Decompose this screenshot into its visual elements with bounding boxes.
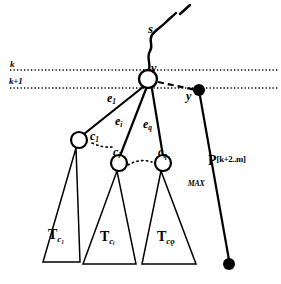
path-label-pmax: P[k+2..m]MAX [208, 154, 246, 188]
edge-label-ei: ei [115, 115, 122, 129]
node-label-ci: ci [113, 146, 120, 160]
diagram-svg [0, 0, 281, 284]
triangle-label-T-c1: Tc₁ [48, 228, 64, 243]
edge-label-ei-sub: i [120, 120, 122, 129]
path-label-base: P [208, 153, 217, 168]
path-label-superscript: [k+2..m] [217, 154, 246, 164]
triangle-label-T-c1-base: T [48, 227, 57, 242]
triangle-label-T-ci: Tcᵢ [100, 230, 115, 245]
triangle-label-T-c1-sub: c₁ [57, 234, 64, 244]
edge-label-eq-sub: q [148, 123, 152, 132]
triangle-label-T-ci-sub: cᵢ [109, 236, 115, 246]
level-label-k: k [10, 60, 14, 69]
path-label-stack: P[k+2..m]MAX [208, 154, 246, 188]
squiggle-label-s: s [148, 22, 153, 35]
figure-canvas: k k+1 v y s e1 ei eq c1 ci cq Tc₁ Tcᵢ Tc… [0, 0, 281, 284]
triangle-T-ci [83, 171, 136, 264]
edge-label-e1: e1 [107, 92, 116, 106]
node-label-c1-sub: 1 [95, 135, 99, 144]
triangle-label-T-cq: Tcǫ [157, 230, 175, 245]
node-label-v: v [151, 62, 156, 74]
node-dot-y [193, 84, 205, 96]
edge-label-eq: eq [143, 118, 152, 132]
node-label-c1: c1 [90, 130, 99, 144]
node-label-cq-sub: q [163, 151, 167, 160]
path-label-subscript: MAX [188, 180, 205, 188]
triangle-label-T-cq-sub: cǫ [166, 236, 174, 246]
triangle-T-c1 [43, 148, 80, 262]
node-label-y: y [186, 90, 191, 102]
ellipsis-lower [128, 161, 152, 165]
node-label-cq: cq [158, 146, 167, 160]
triangle-label-T-ci-base: T [100, 229, 109, 244]
level-label-k-plus-1: k+1 [9, 77, 23, 86]
edge-label-e1-sub: 1 [112, 97, 116, 106]
node-dot-bottom [223, 258, 235, 270]
triangle-label-T-cq-base: T [157, 229, 166, 244]
node-child-c1 [71, 132, 87, 148]
node-label-ci-sub: i [118, 151, 120, 160]
squiggle-tick-mark [180, 5, 190, 14]
